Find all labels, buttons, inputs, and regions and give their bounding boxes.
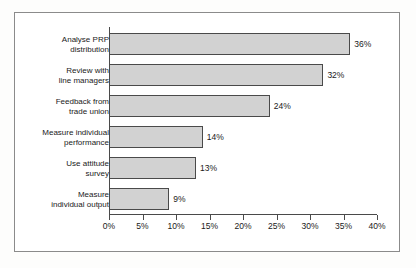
bar-row: Measureindividual output9% <box>15 184 401 214</box>
bar-row: Review withline managers32% <box>15 60 401 90</box>
bar-value-label: 14% <box>207 132 224 142</box>
bar-category-label-line1: Feedback from <box>0 97 109 107</box>
bar-value-label: 13% <box>200 163 217 173</box>
bar-row: Feedback fromtrade union24% <box>15 91 401 121</box>
x-axis-tick <box>310 215 311 220</box>
bar-value-label: 9% <box>173 194 185 204</box>
bar <box>109 95 270 117</box>
bar <box>109 188 169 210</box>
bar-category-label-line1: Review with <box>0 66 109 76</box>
bar <box>109 33 350 55</box>
bar <box>109 64 323 86</box>
bar-category-label-line1: Analyse PRP <box>0 35 109 45</box>
x-axis-tick <box>277 215 278 220</box>
bar-category-label: Review withline managers <box>0 66 109 85</box>
bar <box>109 126 203 148</box>
bar-row: Use attitudesurvey13% <box>15 153 401 183</box>
bar-value-label: 36% <box>354 39 371 49</box>
chart-figure: Analyse PRPdistribution36%Review withlin… <box>0 0 416 268</box>
x-axis-tick <box>377 215 378 220</box>
bar-category-label-line2: performance <box>0 137 109 147</box>
x-axis-tick <box>344 215 345 220</box>
bar-category-label-line2: distribution <box>0 44 109 54</box>
bar-value-label: 24% <box>274 101 291 111</box>
bar-row: Measure individualperformance14% <box>15 122 401 152</box>
bar-category-label: Feedback fromtrade union <box>0 97 109 116</box>
x-axis-tick <box>243 215 244 220</box>
x-axis-tick <box>109 215 110 220</box>
x-axis-tick-label: 40% <box>357 221 397 231</box>
x-axis-tick <box>143 215 144 220</box>
bar-category-label: Use attitudesurvey <box>0 159 109 178</box>
bar-category-label: Measure individualperformance <box>0 128 109 147</box>
bar-category-label-line2: individual output <box>0 199 109 209</box>
bar-category-label-line1: Measure <box>0 190 109 200</box>
bar-category-label: Analyse PRPdistribution <box>0 35 109 54</box>
x-axis-tick <box>176 215 177 220</box>
bar-category-label-line1: Use attitude <box>0 159 109 169</box>
plot-area: Analyse PRPdistribution36%Review withlin… <box>15 13 401 253</box>
bar-category-label-line2: survey <box>0 168 109 178</box>
bar-category-label-line2: trade union <box>0 106 109 116</box>
bar-value-label: 32% <box>327 70 344 80</box>
chart-frame: Analyse PRPdistribution36%Review withlin… <box>14 12 400 252</box>
bar-row: Analyse PRPdistribution36% <box>15 29 401 59</box>
bar <box>109 157 196 179</box>
x-axis-tick <box>210 215 211 220</box>
bar-category-label: Measureindividual output <box>0 190 109 209</box>
bar-category-label-line1: Measure individual <box>0 128 109 138</box>
bar-category-label-line2: line managers <box>0 75 109 85</box>
